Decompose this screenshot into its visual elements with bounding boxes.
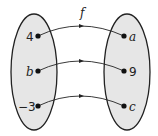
mapping-diagram: f 4 b −3 a 9 c	[0, 0, 158, 136]
function-label: f	[79, 6, 87, 20]
range-set	[104, 14, 150, 130]
domain-label: −3	[18, 100, 36, 114]
domain-label: b	[26, 65, 34, 79]
arrowhead-icon	[79, 94, 84, 98]
arrowhead-icon	[79, 24, 84, 28]
range-point	[121, 103, 126, 108]
range-label: c	[129, 100, 136, 114]
domain-point	[35, 103, 40, 108]
range-label: 9	[129, 65, 137, 79]
arrowhead-icon	[79, 59, 84, 63]
domain-label: 4	[26, 30, 34, 44]
domain-point	[35, 33, 40, 38]
range-label: a	[129, 30, 136, 44]
range-point	[121, 68, 126, 73]
domain-point	[35, 68, 40, 73]
range-point	[121, 33, 126, 38]
